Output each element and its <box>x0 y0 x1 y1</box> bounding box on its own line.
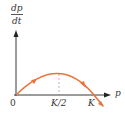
y-label-numerator: dp <box>11 4 23 13</box>
x-tick-0: 0 <box>10 99 16 108</box>
y-label-denominator: dt <box>12 17 21 26</box>
y-label-fraction-bar <box>11 14 23 15</box>
x-tick-k: K <box>88 99 95 108</box>
x-axis-arrow-icon <box>104 93 111 98</box>
y-axis-arrow-icon <box>14 30 19 37</box>
x-tick-k-half: K/2 <box>51 99 66 108</box>
x-axis-label: p <box>115 89 121 98</box>
